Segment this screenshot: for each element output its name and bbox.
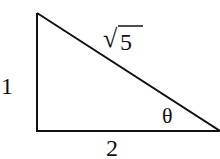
hypotenuse-radical: √ [103,26,117,52]
horizontal-leg-label: 2 [106,136,118,159]
hypotenuse-label: 5 [120,30,132,54]
right-triangle-diagram: 1 √ 5 θ 2 [0,0,220,159]
angle-theta-label: θ [162,105,173,127]
vertical-leg-label: 1 [1,74,13,98]
